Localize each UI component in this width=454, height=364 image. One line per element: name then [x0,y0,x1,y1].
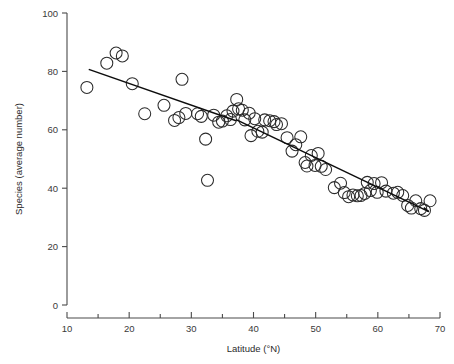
y-axis: 020406080100 [42,8,67,311]
x-tick-label: 20 [124,323,135,334]
y-tick-label: 100 [42,8,58,19]
data-point [169,114,181,126]
x-tick-label: 10 [62,323,73,334]
x-tick-label: 60 [373,323,384,334]
data-point [81,81,93,93]
x-tick-label: 30 [186,323,197,334]
data-point [320,164,332,176]
y-tick-label: 80 [47,66,58,77]
regression-line [236,120,429,212]
data-points-layer [81,47,436,216]
data-point [101,57,113,69]
data-point [200,133,212,145]
data-point [158,99,170,111]
x-tick-label: 50 [310,323,321,334]
data-point [202,174,214,186]
regression-lines-layer [89,69,429,211]
regression-line [89,69,236,120]
data-point [176,73,188,85]
data-point [180,107,192,119]
y-tick-label: 40 [47,183,58,194]
data-point [424,195,436,207]
data-point [245,130,257,142]
x-axis: 10203040506070 [62,312,446,334]
data-point [139,108,151,120]
x-tick-label: 40 [248,323,259,334]
y-tick-label: 0 [53,300,58,311]
chart-figure: 020406080100 10203040506070 Latitude (°N… [0,0,454,364]
data-point [173,112,185,124]
x-axis-title: Latitude (°N) [227,343,280,354]
y-tick-label: 20 [47,241,58,252]
data-point [312,147,324,159]
y-tick-label: 60 [47,124,58,135]
y-axis-title: Species (average number) [13,103,24,215]
scatter-plot-svg: 020406080100 10203040506070 Latitude (°N… [0,0,454,364]
x-tick-label: 70 [435,323,446,334]
data-point [195,110,207,122]
